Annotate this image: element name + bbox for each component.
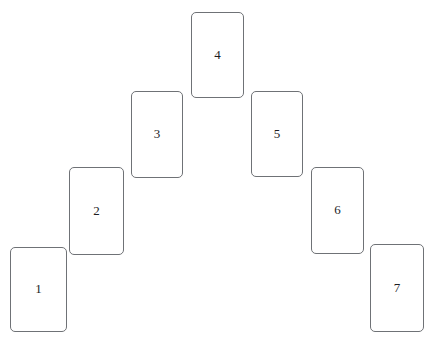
card-position-7[interactable]: 7 — [370, 244, 424, 332]
card-position-4[interactable]: 4 — [191, 12, 244, 98]
card-position-2[interactable]: 2 — [69, 167, 124, 255]
card-label-7: 7 — [394, 281, 401, 294]
card-label-6: 6 — [334, 203, 341, 216]
card-position-6[interactable]: 6 — [311, 167, 364, 254]
card-label-5: 5 — [274, 127, 281, 140]
card-spread-canvas: 1 2 3 4 5 6 7 — [0, 0, 436, 345]
card-label-4: 4 — [214, 48, 221, 61]
card-position-5[interactable]: 5 — [251, 91, 303, 177]
card-position-3[interactable]: 3 — [131, 91, 183, 178]
card-label-1: 1 — [35, 282, 42, 295]
card-label-2: 2 — [93, 204, 100, 217]
card-position-1[interactable]: 1 — [10, 247, 67, 332]
card-label-3: 3 — [154, 127, 161, 140]
